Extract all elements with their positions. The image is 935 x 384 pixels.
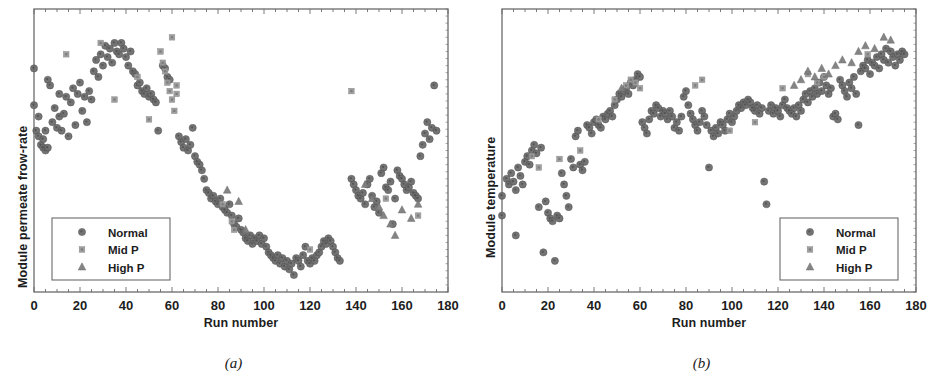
marker-circle	[426, 136, 433, 143]
marker-triangle	[391, 231, 399, 238]
marker-circle	[574, 127, 581, 134]
marker-circle	[51, 104, 58, 111]
marker-circle	[563, 192, 570, 199]
marker-square	[529, 153, 535, 159]
marker-square	[165, 80, 171, 86]
marker-circle	[226, 201, 233, 208]
marker-circle	[120, 45, 127, 52]
marker-circle	[217, 195, 224, 202]
marker-square	[98, 40, 104, 46]
marker-circle	[417, 153, 424, 160]
marker-circle	[30, 65, 37, 72]
marker-circle	[99, 62, 106, 69]
marker-circle	[297, 263, 304, 270]
marker-square	[623, 83, 629, 89]
panel-caption-b: (b)	[468, 355, 935, 372]
marker-circle	[67, 99, 74, 106]
marker-triangle	[818, 64, 826, 71]
marker-triangle	[398, 206, 406, 213]
marker-circle	[643, 130, 650, 137]
marker-square	[692, 83, 698, 89]
marker-triangle	[811, 73, 819, 80]
marker-circle	[155, 127, 162, 134]
x-tick-label: 80	[211, 298, 225, 313]
series-high-p	[223, 180, 422, 238]
marker-circle	[853, 90, 860, 97]
marker-circle	[359, 189, 366, 196]
marker-square	[146, 117, 152, 123]
marker-circle	[834, 116, 841, 123]
marker-circle	[65, 133, 72, 140]
marker-circle	[136, 79, 143, 86]
marker-square	[63, 51, 69, 57]
marker-circle	[189, 124, 196, 131]
x-tick-label: 140	[813, 298, 835, 313]
x-tick-label: 120	[299, 298, 321, 313]
x-tick-label: 180	[437, 298, 459, 313]
marker-triangle	[790, 81, 798, 88]
marker-square	[79, 247, 85, 253]
marker-circle	[109, 59, 116, 66]
marker-circle	[72, 121, 79, 128]
marker-circle	[60, 110, 67, 117]
marker-triangle	[862, 42, 870, 49]
marker-square	[162, 68, 168, 74]
marker-triangle	[880, 33, 888, 40]
marker-circle	[535, 204, 542, 211]
marker-triangle	[871, 44, 879, 51]
marker-circle	[336, 257, 343, 264]
marker-circle	[542, 198, 549, 205]
marker-circle	[42, 127, 49, 134]
marker-circle	[86, 87, 93, 94]
marker-circle	[519, 181, 526, 188]
marker-circle	[538, 144, 545, 151]
marker-triangle	[887, 36, 895, 43]
marker-circle	[781, 96, 788, 103]
marker-circle	[56, 90, 63, 97]
marker-square	[307, 247, 313, 253]
marker-circle	[567, 155, 574, 162]
marker-triangle	[804, 67, 812, 74]
marker-circle	[763, 201, 770, 208]
marker-circle	[758, 104, 765, 111]
x-tick-label: 40	[119, 298, 133, 313]
marker-circle	[260, 235, 267, 242]
marker-square	[160, 60, 166, 66]
legend-label: Normal	[836, 227, 876, 239]
marker-square	[557, 156, 563, 162]
legend-label: Mid P	[108, 244, 139, 256]
x-tick-label: 40	[587, 298, 601, 313]
marker-circle	[761, 178, 768, 185]
marker-circle	[597, 124, 604, 131]
marker-circle	[78, 228, 85, 235]
marker-triangle	[825, 70, 833, 77]
x-tick-label: 180	[905, 298, 927, 313]
panel-b: 020406080100120140160180NormalMid PHigh …	[468, 0, 935, 384]
marker-circle	[88, 96, 95, 103]
marker-circle	[682, 87, 689, 94]
marker-circle	[866, 70, 873, 77]
marker-circle	[366, 175, 373, 182]
marker-circle	[561, 181, 568, 188]
marker-triangle	[407, 214, 415, 221]
marker-circle	[777, 113, 784, 120]
marker-circle	[30, 102, 37, 109]
marker-circle	[419, 141, 426, 148]
marker-circle	[127, 48, 134, 55]
marker-circle	[83, 119, 90, 126]
legend: NormalMid PHigh P	[52, 218, 170, 280]
marker-circle	[44, 144, 51, 151]
marker-circle	[97, 51, 104, 58]
legend-label: Mid P	[836, 244, 867, 256]
marker-circle	[498, 192, 505, 199]
x-tick-label: 140	[345, 298, 367, 313]
marker-circle	[540, 249, 547, 256]
marker-circle	[705, 164, 712, 171]
marker-circle	[806, 228, 813, 235]
marker-circle	[79, 107, 86, 114]
marker-circle	[694, 127, 701, 134]
marker-square	[169, 97, 175, 103]
figure-root: 020406080100120140160180NormalMid PHigh …	[0, 0, 935, 384]
marker-square	[633, 80, 639, 86]
x-tick-label: 120	[767, 298, 789, 313]
